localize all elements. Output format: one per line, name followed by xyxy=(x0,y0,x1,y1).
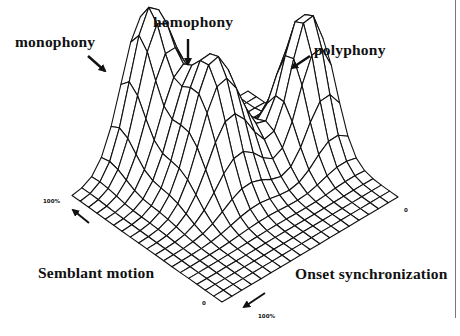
semblant-motion-min-tick: 0 xyxy=(404,207,408,213)
monophony-label: monophony xyxy=(15,33,95,51)
page-edge-rule xyxy=(455,0,456,318)
semblant-motion-direction-arrow-icon xyxy=(73,210,89,223)
surface-plot-figure: monophony homophony polyphony 100% Sembl… xyxy=(0,0,460,336)
monophony-arrow-icon xyxy=(88,56,105,71)
onset-synchronization-max-tick: 100% xyxy=(258,313,275,319)
semblant-motion-axis-label: Semblant motion xyxy=(38,264,154,282)
onset-synchronization-axis-label: Onset synchronization xyxy=(295,265,447,283)
semblant-motion-max-tick: 100% xyxy=(43,198,60,204)
homophony-label: homophony xyxy=(153,13,233,31)
polyphony-label: polyphony xyxy=(314,41,386,59)
onset-synchronization-direction-arrow-icon xyxy=(244,293,265,307)
origin-tick: 0 xyxy=(202,300,206,306)
polyphony-arrow-icon xyxy=(292,56,310,68)
